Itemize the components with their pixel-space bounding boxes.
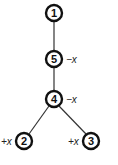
node-label: 1 bbox=[51, 7, 57, 19]
node-label: 2 bbox=[21, 135, 27, 147]
node-3: 3 +x bbox=[68, 133, 99, 149]
node-annotation: −x bbox=[66, 54, 78, 65]
node-label: 4 bbox=[51, 93, 58, 105]
node-annotation: −x bbox=[66, 94, 78, 105]
edge-4-3 bbox=[59, 106, 86, 134]
node-2: 2 +x bbox=[1, 133, 32, 149]
node-label: 3 bbox=[88, 135, 94, 147]
node-annotation: +x bbox=[68, 136, 80, 147]
node-label: 5 bbox=[51, 53, 57, 65]
node-4: 4 −x bbox=[46, 91, 78, 107]
tree-diagram: 1 5 −x 4 −x 2 +x 3 +x bbox=[0, 0, 118, 165]
edges bbox=[29, 21, 86, 134]
node-5: 5 −x bbox=[46, 51, 78, 67]
edge-4-2 bbox=[29, 106, 49, 134]
node-annotation: +x bbox=[1, 136, 13, 147]
node-1: 1 bbox=[46, 5, 62, 21]
